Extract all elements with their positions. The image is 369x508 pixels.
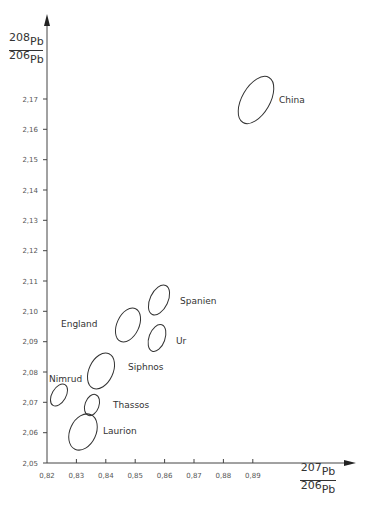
x-tick-label: 0,84 [98,472,114,480]
y-tick-label: 2,12 [22,247,38,255]
y-axis-label: 208Pb 206Pb [9,36,43,65]
x-tick-label: 0,82 [39,472,55,480]
x-tick-label: 0,89 [245,472,261,480]
x-tick-label: 0,83 [69,472,85,480]
ellipse-england [110,304,145,346]
label-laurion: Laurion [103,426,137,436]
y-tick-label: 2,08 [22,369,38,377]
label-england: England [61,319,98,329]
y-ticks [43,99,47,463]
ellipse-spanien [144,282,174,319]
x-tick-label: 0,86 [157,472,173,480]
y-tick-label: 2,11 [22,278,38,286]
ellipse-ur [145,322,170,354]
x-tick-labels: 0,82 0,83 0,84 0,85 0,86 0,87 0,88 0,89 [39,472,260,480]
ellipse-laurion [63,409,103,454]
y-tick-label: 2,17 [22,96,38,104]
ellipse-china [231,70,281,129]
label-thassos: Thassos [112,400,150,410]
y-axis-denominator: 206Pb [9,54,43,65]
y-tick-label: 2,10 [22,308,38,316]
ellipses [47,70,281,454]
label-siphnos: Siphnos [128,362,164,372]
ellipse-siphnos [82,349,120,394]
x-axis-label: 207Pb 206Pb [300,466,336,495]
y-tick-label: 2,05 [22,460,38,468]
ellipse-nimrud [47,381,71,409]
x-axis-denominator: 206Pb [300,484,336,495]
x-tick-label: 0,88 [216,472,232,480]
x-axis-numerator: 207Pb [300,466,336,477]
x-tick-label: 0,85 [127,472,143,480]
y-tick-label: 2,14 [22,187,38,195]
y-axis-arrow-icon [44,14,50,26]
y-tick-label: 2,06 [22,429,38,437]
y-tick-label: 2,07 [22,399,38,407]
y-axis-numerator: 208Pb [9,36,43,47]
x-axis-arrow-icon [344,460,356,466]
label-spanien: Spanien [180,296,216,306]
lead-isotope-chart: 2,05 2,06 2,07 2,08 2,09 2,10 2,11 2,12 … [0,0,369,508]
y-tick-label: 2,13 [22,217,38,225]
x-tick-label: 0,87 [186,472,202,480]
label-ur: Ur [176,336,187,346]
y-tick-label: 2,16 [22,126,38,134]
group-labels: China Spanien England Ur Siphnos Nimrud … [49,95,305,436]
label-china: China [279,95,305,105]
y-tick-label: 2,09 [22,338,38,346]
y-tick-label: 2,15 [22,156,38,164]
y-tick-labels: 2,05 2,06 2,07 2,08 2,09 2,10 2,11 2,12 … [22,96,38,468]
label-nimrud: Nimrud [49,374,82,384]
x-ticks [76,459,252,463]
